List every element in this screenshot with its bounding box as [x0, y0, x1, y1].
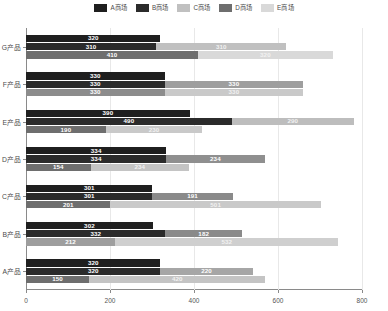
bar-segment[interactable]: 332 [26, 230, 165, 237]
bar-value-label: 490 [124, 118, 135, 124]
stacked-bar[interactable]: 334 [26, 147, 166, 154]
bar-segment[interactable]: 334 [26, 147, 166, 154]
gridline [362, 28, 363, 290]
legend-label: E商场 [277, 5, 294, 11]
bar-segment[interactable]: 230 [106, 126, 203, 133]
bar-value-label: 420 [172, 276, 183, 282]
bar-group: B产品302332182212532 [26, 215, 362, 252]
bar-value-label: 334 [91, 156, 102, 162]
y-axis-category-label: D产品 [2, 154, 21, 164]
bar-value-label: 330 [90, 89, 101, 95]
bar-segment[interactable]: 290 [232, 118, 354, 125]
bar-value-label: 301 [84, 193, 95, 199]
stacked-bar[interactable]: 190230 [26, 126, 202, 133]
stacked-bar[interactable]: 201501 [26, 201, 321, 208]
x-axis-tick-label: 0 [24, 297, 28, 304]
bar-segment[interactable]: 330 [165, 89, 304, 96]
bar-segment[interactable]: 302 [26, 222, 153, 229]
bar-segment[interactable]: 334 [26, 155, 166, 162]
stacked-bar[interactable]: 320 [26, 259, 160, 266]
stacked-bar[interactable]: 301 [26, 185, 152, 192]
bar-value-label: 234 [210, 156, 221, 162]
stacked-bar[interactable]: 302 [26, 222, 153, 229]
stacked-bar[interactable]: 320 [26, 35, 160, 42]
stacked-bar[interactable]: 154234 [26, 164, 189, 171]
stacked-bar[interactable]: 310310 [26, 43, 286, 50]
stacked-bar[interactable]: 332182 [26, 230, 242, 237]
stacked-bar[interactable]: 330330 [26, 81, 303, 88]
bar-value-label: 191 [187, 193, 198, 199]
bar-value-label: 230 [149, 127, 160, 133]
x-axis-tick-label: 800 [357, 297, 368, 304]
y-axis-category-label: E产品 [2, 117, 21, 127]
y-axis-category-label: G产品 [2, 42, 21, 52]
bar-value-label: 302 [84, 223, 95, 229]
bar-group: F产品330330330330330 [26, 65, 362, 102]
legend-item-A商场[interactable]: A商场 [94, 4, 127, 12]
bar-segment[interactable]: 320 [198, 51, 332, 58]
bar-segment[interactable]: 330 [26, 81, 165, 88]
y-axis-category-label: B产品 [2, 229, 21, 239]
bar-segment[interactable]: 191 [152, 193, 232, 200]
bar-group: G产品320310310410320 [26, 28, 362, 65]
legend-item-C商场[interactable]: C商场 [177, 4, 210, 12]
legend-item-B商场[interactable]: B商场 [136, 4, 169, 12]
bar-segment[interactable]: 301 [26, 193, 152, 200]
legend-label: D商场 [235, 5, 252, 11]
bar-value-label: 330 [229, 89, 240, 95]
bar-segment[interactable]: 220 [160, 268, 252, 275]
bar-value-label: 212 [65, 239, 76, 245]
bar-segment[interactable]: 212 [26, 238, 115, 245]
bar-segment[interactable]: 182 [165, 230, 241, 237]
stacked-bar[interactable]: 490290 [26, 118, 354, 125]
bar-value-label: 532 [221, 239, 232, 245]
bar-segment[interactable]: 490 [26, 118, 232, 125]
bar-segment[interactable]: 190 [26, 126, 106, 133]
bar-segment[interactable]: 154 [26, 164, 91, 171]
stacked-bar[interactable]: 212532 [26, 238, 338, 245]
legend-item-E商场[interactable]: E商场 [261, 4, 294, 12]
bar-value-label: 410 [107, 52, 118, 58]
stacked-bar[interactable]: 334234 [26, 155, 265, 162]
bar-segment[interactable]: 310 [156, 43, 286, 50]
x-axis-tick [26, 290, 27, 293]
bar-segment[interactable]: 501 [110, 201, 320, 208]
x-axis-tick [278, 290, 279, 293]
bar-value-label: 320 [88, 268, 99, 274]
stacked-bar[interactable]: 330 [26, 72, 165, 79]
stacked-bar[interactable]: 301191 [26, 193, 233, 200]
bar-value-label: 150 [52, 276, 63, 282]
legend-item-D商场[interactable]: D商场 [219, 4, 252, 12]
bar-segment[interactable]: 320 [26, 268, 160, 275]
bar-segment[interactable]: 390 [26, 110, 190, 117]
bar-segment[interactable]: 150 [26, 276, 89, 283]
bar-value-label: 290 [287, 118, 298, 124]
bar-segment[interactable]: 320 [26, 35, 160, 42]
legend-swatch-icon [177, 4, 190, 12]
bar-chart: A商场B商场C商场D商场E商场 0200400600800G产品32031031… [0, 0, 388, 311]
bar-segment[interactable]: 532 [115, 238, 338, 245]
bar-segment[interactable]: 420 [89, 276, 265, 283]
stacked-bar[interactable]: 390 [26, 110, 190, 117]
stacked-bar[interactable]: 410320 [26, 51, 333, 58]
plot-area: 0200400600800G产品320310310410320F产品330330… [26, 28, 362, 290]
bar-value-label: 190 [61, 127, 72, 133]
bar-segment[interactable]: 330 [165, 81, 304, 88]
bar-segment[interactable]: 234 [91, 164, 189, 171]
bar-segment[interactable]: 310 [26, 43, 156, 50]
y-axis-category-label: A产品 [2, 266, 21, 276]
legend-swatch-icon [94, 4, 107, 12]
stacked-bar[interactable]: 320220 [26, 268, 253, 275]
bar-segment[interactable]: 410 [26, 51, 198, 58]
bar-segment[interactable]: 201 [26, 201, 110, 208]
bar-segment[interactable]: 330 [26, 89, 165, 96]
bar-value-label: 182 [198, 231, 209, 237]
stacked-bar[interactable]: 330330 [26, 89, 303, 96]
bar-segment[interactable]: 330 [26, 72, 165, 79]
chart-legend: A商场B商场C商场D商场E商场 [0, 4, 388, 12]
bar-segment[interactable]: 234 [166, 155, 264, 162]
bar-segment[interactable]: 320 [26, 259, 160, 266]
bar-segment[interactable]: 301 [26, 185, 152, 192]
stacked-bar[interactable]: 150420 [26, 276, 265, 283]
bar-group: E产品390490290190230 [26, 103, 362, 140]
